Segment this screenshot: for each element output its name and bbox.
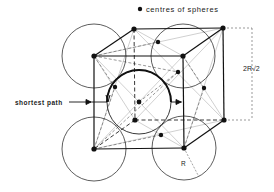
centre-dot-front-face xyxy=(137,100,142,105)
radius-label: R xyxy=(181,160,186,167)
dimension-label: 2R√2 xyxy=(243,65,260,72)
shortest-path-pointer xyxy=(69,100,182,105)
centre-dot-front-bottom-right xyxy=(181,145,186,150)
centre-dot-back-bottom-left xyxy=(132,117,137,122)
centre-dot-back-bottom-right xyxy=(221,117,226,122)
centre-dot-top-face xyxy=(156,40,160,44)
centre-dot-left-face xyxy=(113,85,117,89)
centre-dot-front-bottom-left xyxy=(91,146,96,151)
radius-line xyxy=(184,148,199,177)
centre-dot-back-top-right xyxy=(220,25,225,30)
centre-dot-front-top-left xyxy=(91,53,96,58)
legend-dot-icon xyxy=(138,7,142,11)
dashed-construction-lines xyxy=(94,42,204,149)
centre-dot-front-top-right xyxy=(180,53,185,58)
centre-dot-back-top-left xyxy=(131,26,136,31)
centre-dot-back-face xyxy=(176,70,180,74)
legend-label: centres of spheres xyxy=(146,5,219,14)
shortest-path-label: shortest path xyxy=(15,99,63,107)
fcc-unit-cell-diagram: centres of spheres shortest path 2R√2 R xyxy=(0,0,274,192)
centre-dot-right-face xyxy=(202,86,206,90)
dimension-bracket xyxy=(223,28,252,120)
centre-dot-bottom-face xyxy=(159,133,163,137)
